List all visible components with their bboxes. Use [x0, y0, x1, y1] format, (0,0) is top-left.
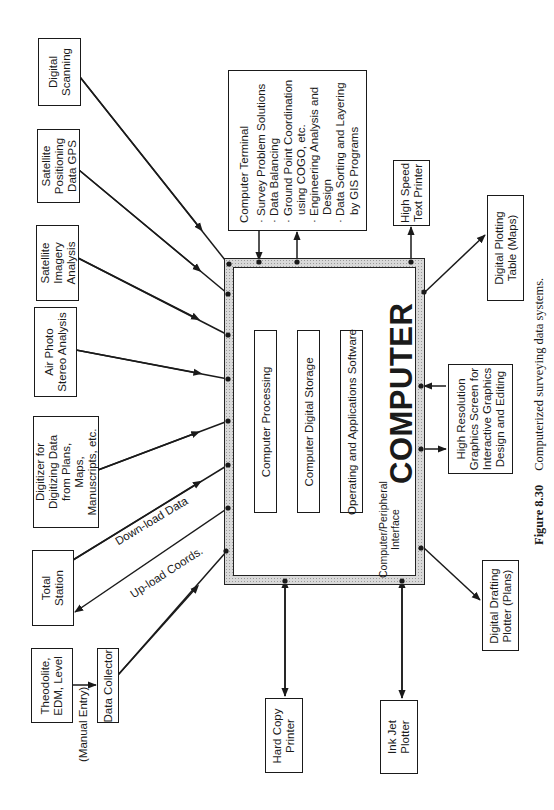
computer-title: COMPUTER: [384, 303, 420, 484]
digital-scanning-box: DigitalScanning: [38, 38, 81, 106]
manual-entry-label: (Manual Entry): [77, 687, 89, 762]
interface-label: Computer/Peripheral Interface: [377, 481, 401, 578]
satellite-imagery-box: SatelliteImageryAnalysis: [36, 225, 79, 301]
computer-processing-label: Computer Processing: [259, 366, 272, 477]
edge-drafting-plotter: [424, 548, 480, 600]
figure-caption-text: Computerized surveying data systems.: [532, 278, 546, 471]
theodolite-box: Theodolite,EDM, Level: [31, 648, 73, 723]
satellite-positioning-box: SatellitePositioningData GPS: [37, 129, 80, 203]
computer-terminal-box: Computer Terminal · Survey Problem Solut…: [228, 70, 367, 231]
computer-storage-box: Computer Digital Storage: [297, 330, 320, 513]
high-speed-printer-box: High SpeedText Printer: [393, 160, 430, 226]
terminal-title: Computer Terminal: [238, 71, 251, 223]
edge-plotting-table: [425, 235, 485, 292]
digital-drafting-plotter-box: Digital DraftingPlotter (Plans): [482, 560, 519, 651]
computer-processing-box: Computer Processing: [254, 330, 277, 513]
hard-copy-printer-box: Hard CopyPrinter: [265, 698, 303, 773]
computer-storage-label: Computer Digital Storage: [302, 357, 315, 486]
air-photo-box: Air PhotoStereo Analysis: [34, 307, 77, 397]
digital-plotting-table-box: Digital PlottingTable (Maps): [487, 195, 524, 301]
digitizer-box: Digitizer forDigitizing Datafrom Plans,M…: [33, 416, 99, 528]
data-collector-box: Data Collector: [97, 648, 119, 723]
hi-res-graphics-box: High ResolutionGraphics Screen forIntera…: [448, 364, 513, 474]
figure-caption: Figure 8.30Computerized surveying data s…: [532, 278, 547, 545]
software-box: Operating and Applications Software: [340, 330, 363, 513]
figure-number: Figure 8.30: [532, 485, 546, 545]
ink-jet-plotter-box: Ink JetPlotter: [380, 700, 418, 774]
total-station-box: TotalStation: [32, 550, 74, 626]
computer-terminal-content: Computer Terminal · Survey Problem Solut…: [232, 71, 368, 229]
software-label: Operating and Applications Software: [345, 328, 358, 514]
